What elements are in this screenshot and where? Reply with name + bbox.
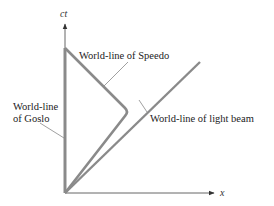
ct-axis-label: ct (60, 8, 67, 19)
light-beam-label: World-line of light beam (150, 113, 254, 124)
goslo-label-line1: World-line (13, 101, 59, 112)
x-axis-label: x (219, 187, 225, 198)
light-beam-leader-line (139, 100, 147, 112)
light-beam-worldline (65, 62, 200, 193)
spacetime-diagram: ct x World-line of Speedo World-line of … (0, 0, 274, 206)
speedo-leader-line (104, 62, 128, 86)
speedo-label: World-line of Speedo (79, 50, 169, 61)
goslo-label-line2: of Goslo (13, 113, 49, 124)
speedo-worldline (65, 48, 127, 193)
goslo-leader-line (40, 123, 64, 138)
